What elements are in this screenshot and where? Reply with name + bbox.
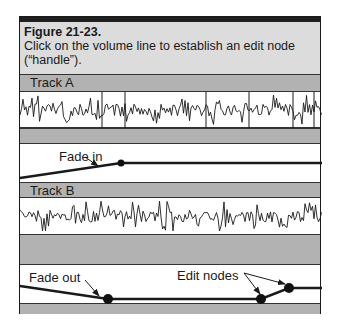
fade-out-arrow xyxy=(85,280,99,296)
edit-node-arrow-2 xyxy=(244,273,285,284)
edit-node-handle[interactable] xyxy=(284,283,294,293)
track-b-volume-line[interactable] xyxy=(20,286,322,299)
edit-node-handle[interactable] xyxy=(118,160,125,167)
volume-lines-overlay xyxy=(20,17,322,315)
edit-node-handle[interactable] xyxy=(256,294,266,304)
figure-21-23: Figure 21-23. Click on the volume line t… xyxy=(19,16,321,314)
edit-node-handle[interactable] xyxy=(103,294,113,304)
track-a-volume-line[interactable] xyxy=(20,163,322,178)
fade-in-arrow xyxy=(85,157,98,166)
